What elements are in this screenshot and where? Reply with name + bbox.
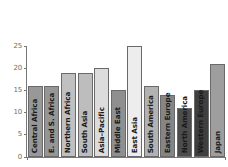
- bar-group: Eastern Europe: [160, 95, 175, 157]
- bar-category-label: Middle East: [114, 107, 121, 153]
- bar-group: Northern Africa: [61, 73, 76, 157]
- bar-category-label: E. and S. Africa: [48, 93, 55, 153]
- bar-group: Asia–Pacific: [94, 68, 109, 157]
- bar-group: E. and S. Africa: [44, 86, 59, 157]
- bar-category-label: Eastern Europe: [164, 92, 171, 153]
- y-axis-tick-label: 20: [13, 64, 22, 71]
- bar-group: Central Africa: [28, 86, 43, 157]
- y-axis-tick-label: 5: [18, 131, 22, 138]
- bar-group: East Asia: [127, 46, 142, 157]
- bar-group: North America: [177, 108, 192, 157]
- bar-category-label: North America: [181, 96, 188, 153]
- y-axis-tick-label: 15: [13, 86, 22, 93]
- bar-category-label: East Asia: [131, 117, 138, 153]
- plot-area: Central AfricaE. and S. AfricaNorthern A…: [27, 0, 228, 167]
- bar-group: Middle East: [111, 90, 126, 157]
- bar-group: Western Europe: [194, 90, 209, 157]
- bar-category-label: Japan: [214, 131, 221, 153]
- bar-category-label: South Asia: [81, 111, 88, 153]
- y-axis-tick-label: 10: [13, 109, 22, 116]
- y-axis-tick-label: 0: [18, 153, 22, 160]
- bar-category-label: Central Africa: [32, 99, 39, 153]
- y-axis: 0510152025: [0, 0, 27, 167]
- bar-group: Japan: [210, 64, 225, 157]
- bar-category-label: Western Europe: [197, 90, 204, 153]
- bar-category-label: Asia–Pacific: [98, 107, 105, 153]
- bar-group: South America: [144, 86, 159, 157]
- bar-category-label: South America: [148, 95, 155, 153]
- x-axis-line: [27, 157, 226, 158]
- y-axis-tick-label: 25: [13, 42, 22, 49]
- bar-category-label: Northern Africa: [65, 92, 72, 153]
- bar-group: South Asia: [78, 73, 93, 157]
- bar-chart: 0510152025 Central AfricaE. and S. Afric…: [0, 0, 228, 167]
